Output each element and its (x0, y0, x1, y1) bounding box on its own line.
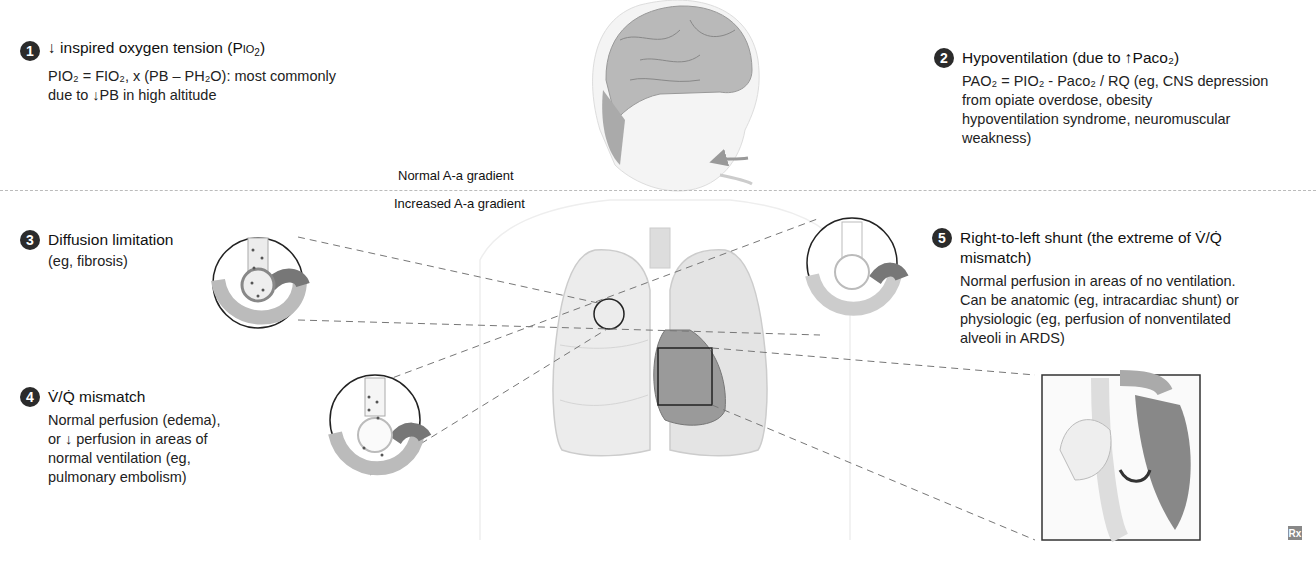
section-1-title: ↓ inspired oxygen tension (PIO2) (48, 38, 265, 63)
section-3: 3 Diffusion limitation (eg, fibrosis) (20, 230, 220, 271)
increased-gradient-label: Increased A-a gradient (394, 196, 525, 211)
section-5-title: Right-to-left shunt (the extreme of V̇/Q… (960, 228, 1222, 268)
section-2-title: Hypoventilation (due to ↑Paco₂) (962, 48, 1179, 68)
section-2-body: PAO₂ = PIO₂ - Paco₂ / RQ (eg, CNS depres… (962, 72, 1314, 148)
number-badge-4: 4 (20, 387, 40, 407)
trachea (650, 228, 670, 268)
rx-logo-icon: Rx (1288, 526, 1302, 540)
number-badge-3: 3 (20, 230, 40, 250)
section-4: 4 V̇/Q̇ mismatch Normal perfusion (edema… (20, 387, 280, 487)
section-3-body: (eg, fibrosis) (48, 252, 220, 271)
section-2: 2 Hypoventilation (due to ↑Paco₂) PAO₂ =… (934, 48, 1314, 148)
vq-alveolus-illustration (330, 375, 425, 468)
number-badge-1: 1 (20, 41, 40, 61)
section-1-body: PIO₂ = FIO₂, x (PB – PH₂O): most commonl… (48, 67, 440, 105)
section-3-title: Diffusion limitation (48, 230, 174, 250)
down-arrow-icon: ↓ (48, 39, 56, 56)
section-4-title: V̇/Q̇ mismatch (48, 387, 145, 407)
number-badge-5: 5 (932, 228, 952, 248)
up-arrow-icon: ↑ (1125, 49, 1133, 66)
heart-shunt-detail-illustration (1042, 375, 1200, 540)
gradient-divider (0, 190, 1316, 191)
section-5: 5 Right-to-left shunt (the extreme of V̇… (932, 228, 1316, 348)
head-illustration (593, 0, 760, 191)
section-1: 1 ↓ inspired oxygen tension (PIO2) PIO₂ … (20, 38, 440, 105)
normal-gradient-label: Normal A-a gradient (398, 168, 514, 183)
diffusion-alveolus-illustration (213, 238, 303, 328)
section-5-body: Normal perfusion in areas of no ventilat… (960, 272, 1316, 348)
number-badge-2: 2 (934, 48, 954, 68)
section-4-body: Normal perfusion (edema), or ↓ perfusion… (48, 411, 280, 487)
down-arrow-icon: ↓ (92, 87, 99, 103)
shunt-alveolus-illustration (807, 218, 902, 309)
